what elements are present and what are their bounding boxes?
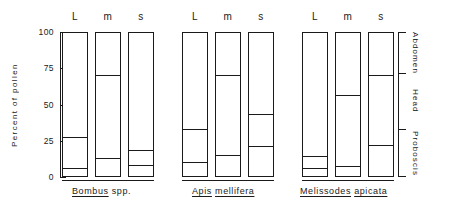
segment-divider-proboscis-head	[303, 168, 327, 169]
bar-group-melissodes: L m s	[300, 32, 400, 177]
segment-divider-proboscis-head	[63, 168, 87, 169]
region-label-proboscis: Proboscis	[408, 129, 422, 177]
y-axis-label: Percent of pollen	[6, 40, 22, 170]
caption-apis-genus: Apis	[192, 186, 212, 196]
segment-divider-proboscis-head	[369, 145, 393, 146]
plot-area: L m s L m	[60, 32, 390, 177]
caption-melissodes: Melissodes apicata	[300, 186, 387, 196]
segment-divider-proboscis-head	[249, 146, 273, 147]
bracket-tick-bottom	[399, 176, 406, 177]
bar-group-bombus: L m s	[60, 32, 160, 177]
y-tick-label-75: 75	[28, 63, 54, 73]
bar-label-apis-m: m	[215, 11, 241, 22]
segment-divider-proboscis-head	[96, 158, 120, 159]
caption-apis: Apis mellifera	[192, 186, 254, 196]
segment-divider-head-abdomen	[96, 75, 120, 76]
segment-divider-head-abdomen	[63, 137, 87, 138]
caption-bombus-genus: Bombus	[72, 186, 109, 196]
segment-divider-head-abdomen	[216, 75, 240, 76]
bracket-tick-head-proboscis	[399, 129, 406, 130]
segment-divider-proboscis-head	[336, 166, 360, 167]
caption-melissodes-genus: Melissodes	[300, 186, 351, 196]
bar-label-bombus-L: L	[62, 11, 88, 22]
segment-divider-proboscis-head	[216, 155, 240, 156]
segment-divider-proboscis-head	[183, 162, 207, 163]
bar-bombus-m[interactable]	[95, 32, 121, 177]
segment-divider-head-abdomen	[129, 150, 153, 151]
caption-melissodes-species: apicata	[354, 186, 387, 196]
bar-label-bombus-m: m	[95, 11, 121, 22]
segment-divider-head-abdomen	[183, 129, 207, 130]
segment-divider-head-abdomen	[336, 95, 360, 96]
y-tick-label-50: 50	[28, 100, 54, 110]
bar-apis-L[interactable]	[182, 32, 208, 177]
bracket-tick-abdomen-head	[399, 73, 406, 74]
region-label-abdomen: Abdomen	[408, 32, 422, 73]
bar-label-apis-L: L	[182, 11, 208, 22]
caption-bombus: Bombus spp.	[72, 186, 131, 196]
bar-bombus-L[interactable]	[62, 32, 88, 177]
bar-melissodes-m[interactable]	[335, 32, 361, 177]
segment-divider-head-abdomen	[369, 75, 393, 76]
group-rule-bombus	[62, 180, 154, 181]
bar-group-apis: L m s	[180, 32, 280, 177]
y-tick-0	[60, 177, 65, 178]
bar-apis-m[interactable]	[215, 32, 241, 177]
y-tick-label-25: 25	[28, 136, 54, 146]
segment-divider-proboscis-head	[129, 165, 153, 166]
caption-apis-species: mellifera	[215, 186, 254, 196]
segment-divider-head-abdomen	[303, 156, 327, 157]
region-label-head: Head	[408, 73, 422, 130]
bar-apis-s[interactable]	[248, 32, 274, 177]
segment-divider-head-abdomen	[249, 114, 273, 115]
bar-bombus-s[interactable]	[128, 32, 154, 177]
y-tick-label-100: 100	[28, 27, 54, 37]
y-tick-label-0: 0	[28, 172, 54, 182]
group-rule-melissodes	[302, 180, 394, 181]
body-region-bracket	[398, 32, 405, 177]
bar-melissodes-L[interactable]	[302, 32, 328, 177]
bracket-tick-top	[399, 32, 406, 33]
bar-label-melissodes-s: s	[368, 11, 394, 22]
pollen-distribution-figure: Percent of pollen 100 75 50 25 0 L m	[0, 0, 454, 210]
bar-label-melissodes-m: m	[335, 11, 361, 22]
caption-bombus-species: spp.	[112, 186, 131, 196]
bar-label-bombus-s: s	[128, 11, 154, 22]
group-rule-apis	[182, 180, 274, 181]
bar-melissodes-s[interactable]	[368, 32, 394, 177]
bar-label-melissodes-L: L	[302, 11, 328, 22]
bar-label-apis-s: s	[248, 11, 274, 22]
